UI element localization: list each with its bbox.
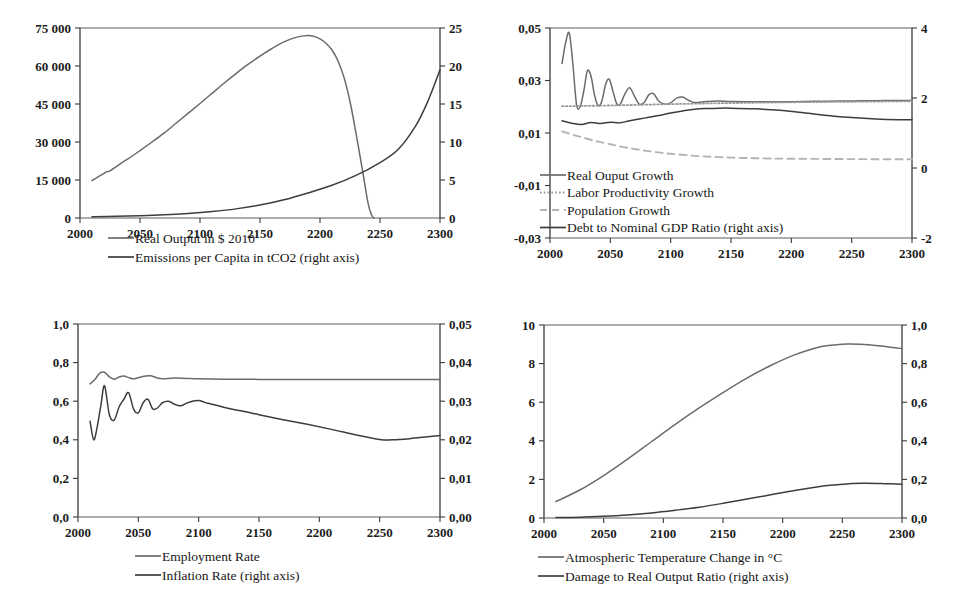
series-group <box>90 372 440 440</box>
y-tick-label-left: 0,05 <box>518 21 541 36</box>
x-tick-label: 2050 <box>591 526 617 541</box>
y-tick-label-left: -0,01 <box>514 178 541 193</box>
y-tick-label-left: 15 000 <box>35 173 71 188</box>
chart-legend: Real Ouput GrowthLabor Productivity Grow… <box>540 168 783 236</box>
series-line <box>556 483 902 517</box>
series-group <box>556 344 902 518</box>
chart-panel-employment-inflation: 0,00,20,40,60,81,00,000,010,020,030,040,… <box>0 306 482 612</box>
y-tick-label-right: 1,0 <box>911 318 927 333</box>
y-tick-label-left: 0 <box>529 511 536 526</box>
y-tick-label-right: 0 <box>449 211 456 226</box>
chart-panel-temperature-damage: 02468100,00,20,40,60,81,0200020502100215… <box>482 306 964 612</box>
x-tick-label: 2000 <box>537 246 563 261</box>
y-tick-label-right: 20 <box>449 59 462 74</box>
y-axis-left: 0246810 <box>522 318 544 526</box>
y-tick-label-left: 1,0 <box>53 317 69 332</box>
y-tick-label-left: 0,03 <box>518 73 541 88</box>
y-tick-label-left: -0,03 <box>514 231 542 246</box>
legend-label: Real Ouput Growth <box>567 168 674 183</box>
x-tick-label: 2100 <box>650 526 676 541</box>
chart-panel-output-emissions: 015 00030 00045 00060 00075 000051015202… <box>0 0 482 306</box>
y-tick-label-left: 8 <box>529 356 536 371</box>
y-tick-label-left: 2 <box>529 472 536 487</box>
x-tick-label: 2200 <box>307 226 333 241</box>
y-axis-left: -0,03-0,010,010,030,05 <box>514 21 550 246</box>
x-tick-label: 2300 <box>427 226 453 241</box>
y-tick-label-right: 0,04 <box>449 355 472 370</box>
y-tick-label-left: 75 000 <box>35 21 71 36</box>
series-line <box>92 36 374 218</box>
y-tick-label-left: 45 000 <box>35 97 71 112</box>
y-tick-label-right: 0,03 <box>449 394 472 409</box>
legend-label: Debt to Nominal GDP Ratio (right axis) <box>567 220 783 235</box>
y-axis-left: 0,00,20,40,60,81,0 <box>53 317 78 525</box>
series-line <box>556 344 902 502</box>
x-axis: 2000205021002150220022502300 <box>537 238 925 261</box>
y-tick-label-left: 0,01 <box>518 126 541 141</box>
y-tick-label-right: 0,8 <box>911 356 928 371</box>
x-tick-label: 2000 <box>67 226 93 241</box>
legend-label: Real Output in $ 2010 <box>135 231 255 246</box>
series-line <box>90 372 440 384</box>
series-line <box>562 108 912 125</box>
y-tick-label-left: 0,2 <box>53 471 69 486</box>
x-tick-label: 2250 <box>839 246 865 261</box>
y-tick-label-right: 15 <box>449 97 463 112</box>
series-line <box>562 32 912 109</box>
chart-legend: Employment RateInflation Rate (right axi… <box>135 549 300 583</box>
y-tick-label-right: 0,0 <box>911 511 927 526</box>
x-tick-label: 2100 <box>658 246 684 261</box>
chart-panel-growth-debt: -0,03-0,010,010,030,05-20242000205021002… <box>482 0 964 306</box>
y-tick-label-right: 0,01 <box>449 471 472 486</box>
y-tick-label-right: 5 <box>449 173 456 188</box>
legend-label: Atmospheric Temperature Change in °C <box>565 550 782 565</box>
chart-legend: Atmospheric Temperature Change in °CDama… <box>538 550 788 584</box>
y-tick-label-left: 0 <box>65 211 72 226</box>
y-tick-label-left: 4 <box>529 433 536 448</box>
series-group <box>562 32 912 159</box>
x-tick-label: 2250 <box>367 525 393 540</box>
series-group <box>92 36 440 218</box>
x-tick-label: 2300 <box>889 526 915 541</box>
figure-grid: 015 00030 00045 00060 00075 000051015202… <box>0 0 964 612</box>
y-tick-label-right: 0,6 <box>911 395 928 410</box>
y-tick-label-left: 60 000 <box>35 59 71 74</box>
y-axis-right: 0,00,20,40,60,81,0 <box>902 318 928 526</box>
x-tick-label: 2300 <box>899 246 925 261</box>
y-tick-label-right: 0 <box>921 161 928 176</box>
chart-frame <box>78 324 440 517</box>
x-tick-label: 2200 <box>778 246 804 261</box>
x-axis: 2000205021002150220022502300 <box>531 518 915 541</box>
series-line <box>562 131 912 159</box>
y-axis-right: 0,000,010,020,030,040,05 <box>440 317 472 525</box>
x-tick-label: 2000 <box>65 525 91 540</box>
x-tick-label: 2150 <box>710 526 736 541</box>
y-tick-label-right: -2 <box>921 231 932 246</box>
chart-frame <box>544 325 902 518</box>
legend-label: Inflation Rate (right axis) <box>162 568 300 583</box>
legend-label: Population Growth <box>567 203 670 218</box>
legend-label: Damage to Real Output Ratio (right axis) <box>565 569 788 584</box>
y-tick-label-left: 0,0 <box>53 510 69 525</box>
y-tick-label-left: 0,4 <box>53 432 70 447</box>
x-tick-label: 2150 <box>246 525 272 540</box>
y-tick-label-left: 10 <box>522 318 535 333</box>
series-line <box>90 386 440 440</box>
legend-label: Emissions per Capita in tCO2 (right axis… <box>135 250 359 265</box>
y-tick-label-left: 6 <box>529 395 536 410</box>
legend-label: Employment Rate <box>162 549 260 564</box>
x-tick-label: 2300 <box>427 525 453 540</box>
x-tick-label: 2000 <box>531 526 557 541</box>
y-tick-label-right: 0,05 <box>449 317 472 332</box>
x-tick-label: 2200 <box>770 526 796 541</box>
legend-label: Labor Productivity Growth <box>567 185 714 200</box>
y-tick-label-left: 0,6 <box>53 394 70 409</box>
y-tick-label-right: 0,2 <box>911 472 927 487</box>
y-tick-label-right: 0,00 <box>449 510 472 525</box>
x-tick-label: 2250 <box>367 226 393 241</box>
x-tick-label: 2100 <box>186 525 212 540</box>
series-line <box>92 70 440 217</box>
x-tick-label: 2200 <box>306 525 332 540</box>
y-tick-label-right: 0,4 <box>911 433 928 448</box>
y-axis-right: -2024 <box>912 21 932 246</box>
